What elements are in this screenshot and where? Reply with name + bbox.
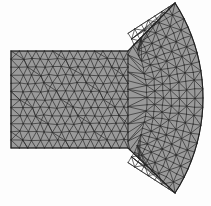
mesh-viewport: Triangular finite element mesh	[0, 0, 211, 206]
mesh-edge	[90, 75, 99, 76]
mesh-edge	[73, 75, 83, 76]
mesh-edge	[179, 90, 187, 91]
mesh-figure: Triangular finite element mesh	[0, 0, 211, 206]
